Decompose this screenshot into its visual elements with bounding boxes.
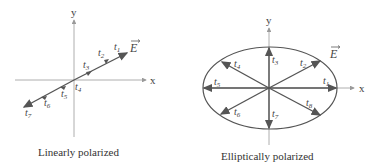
e-field-label: E <box>329 47 338 61</box>
label-t3: t3 <box>83 59 90 72</box>
elliptical-diagram: x y E t1 t2 t3 t4 t5 t6 t7 t8 <box>203 14 365 145</box>
label-t2: t2 <box>300 57 307 70</box>
y-axis-label: y <box>266 14 272 26</box>
label-t3: t3 <box>272 54 279 67</box>
x-axis-label: x <box>359 82 365 94</box>
polarization-figure: x y E t1 t2 t3 t4 t5 t6 t7 x y <box>0 0 380 167</box>
label-t5: t5 <box>61 88 68 101</box>
label-t1: t1 <box>114 41 120 54</box>
label-t1: t1 <box>323 75 329 88</box>
label-t4: t4 <box>75 81 82 94</box>
caption-linearly-polarized: Linearly polarized <box>38 146 119 158</box>
caption-elliptically-polarized: Elliptically polarized <box>221 150 314 162</box>
vector-t8 <box>269 88 320 115</box>
label-t7: t7 <box>25 107 32 120</box>
e-field-label: E <box>129 41 138 55</box>
label-t2: t2 <box>98 47 105 60</box>
vector-t6 <box>221 88 269 114</box>
vector-t4 <box>222 62 269 88</box>
label-t5: t5 <box>214 76 221 89</box>
y-axis-label: y <box>71 6 77 18</box>
label-t7: t7 <box>272 108 279 121</box>
label-t6: t6 <box>234 106 241 119</box>
x-axis-label: x <box>150 74 156 86</box>
label-t6: t6 <box>44 97 51 110</box>
linear-diagram: x y E t1 t2 t3 t4 t5 t6 t7 <box>15 6 156 137</box>
